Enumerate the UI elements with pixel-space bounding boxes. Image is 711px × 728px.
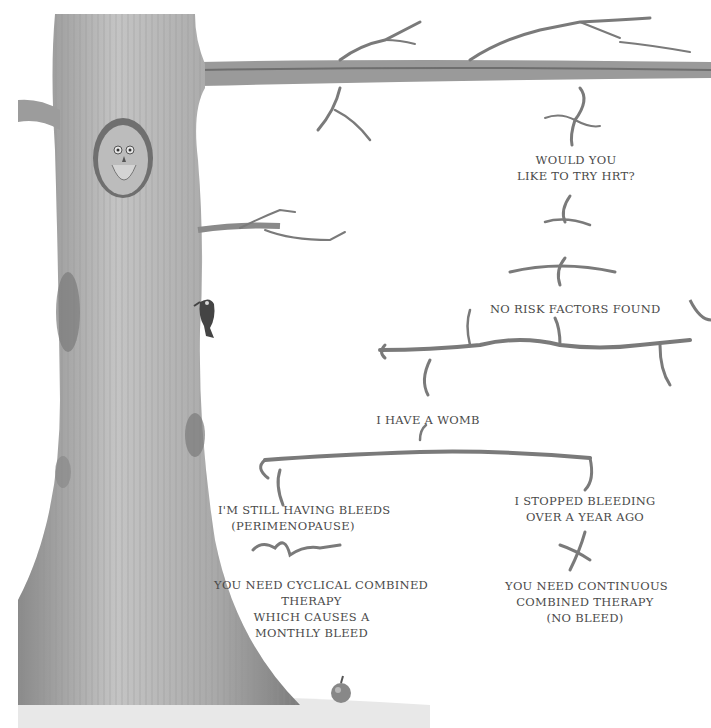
node-line: THERAPY	[214, 593, 409, 609]
node-stopped-bleeding: I STOPPED BLEEDING OVER A YEAR AGO	[510, 493, 660, 525]
apple	[331, 676, 351, 703]
node-line: I STOPPED BLEEDING	[510, 493, 660, 509]
node-cyclical: YOU NEED CYCLICAL COMBINED THERAPY WHICH…	[214, 577, 409, 641]
node-line: NO RISK FACTORS FOUND	[490, 301, 660, 317]
node-line: MONTHLY BLEED	[214, 625, 409, 641]
node-womb: I HAVE A WOMB	[373, 412, 483, 428]
node-hrt: WOULD YOU LIKE TO TRY HRT?	[516, 152, 636, 184]
branches	[240, 18, 690, 570]
node-line: I'M STILL HAVING BLEEDS	[218, 502, 368, 518]
main-branch	[200, 60, 711, 86]
node-line: LIKE TO TRY HRT?	[516, 168, 636, 184]
node-line: (PERIMENOPAUSE)	[218, 518, 368, 534]
node-no-risk: NO RISK FACTORS FOUND	[490, 301, 660, 317]
node-line: OVER A YEAR AGO	[510, 509, 660, 525]
node-continuous: YOU NEED CONTINUOUS COMBINED THERAPY (NO…	[505, 578, 665, 626]
node-still-bleeding: I'M STILL HAVING BLEEDS (PERIMENOPAUSE)	[218, 502, 368, 534]
right-edge-branch	[690, 300, 711, 320]
node-line: YOU NEED CYCLICAL COMBINED	[214, 577, 409, 593]
node-line: (NO BLEED)	[505, 610, 665, 626]
node-line: WHICH CAUSES A	[214, 609, 409, 625]
node-line: COMBINED THERAPY	[505, 594, 665, 610]
owl-in-hollow	[93, 118, 153, 198]
node-line: I HAVE A WOMB	[373, 412, 483, 428]
node-line: YOU NEED CONTINUOUS	[505, 578, 665, 594]
node-line: WOULD YOU	[516, 152, 636, 168]
